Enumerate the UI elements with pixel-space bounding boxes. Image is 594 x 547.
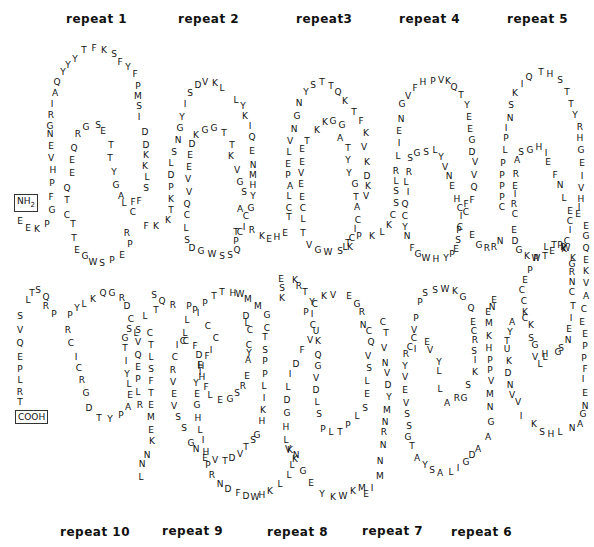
residue-repeat4_outer: Q bbox=[450, 83, 457, 92]
repeat-title-top: repeat 4 bbox=[399, 12, 460, 26]
residue-repeat5_outer: G bbox=[578, 146, 585, 155]
residue-repeat1_outer: Y bbox=[72, 55, 78, 64]
residue-repeat2_inner: K bbox=[228, 152, 234, 161]
residue-repeat1_inner: T bbox=[64, 196, 70, 205]
residue-repeat2_bottom: W bbox=[208, 250, 217, 259]
residue-repeat8_outer: I bbox=[289, 370, 292, 379]
residue-repeat7_link: M bbox=[486, 390, 494, 399]
residue-repeat6_outer: R bbox=[569, 268, 575, 277]
residue-repeat1_outer: G bbox=[47, 122, 54, 131]
residue-repeat8_inner: N bbox=[360, 321, 367, 330]
residue-repeat1_inner: Q bbox=[63, 184, 70, 193]
residue-repeat7_outer: V bbox=[402, 373, 408, 382]
residue-repeat4_bottom: E bbox=[453, 245, 459, 254]
residue-repeat4_inner: C bbox=[402, 212, 408, 221]
residue-repeat3_inner: Y bbox=[345, 156, 351, 165]
residue-repeat8_link: N bbox=[382, 359, 389, 368]
residue-repeat8_link: D bbox=[385, 381, 392, 390]
residue-repeat2_bottom: K bbox=[259, 232, 265, 241]
residue-repeat8_inner: V bbox=[313, 374, 319, 383]
residue-repeat7_link: G bbox=[488, 418, 495, 427]
residue-repeat9_outer: N bbox=[193, 445, 200, 454]
residue-repeat5_outer: Y bbox=[572, 111, 578, 120]
residue-repeat6_outer: Y bbox=[507, 328, 513, 337]
residue-repeat8_inner: C bbox=[366, 327, 372, 336]
residue-repeat10_inner: I bbox=[125, 357, 128, 366]
residue-repeat7_outer: C bbox=[407, 343, 413, 352]
residue-repeat1_outer: H bbox=[50, 166, 57, 175]
residue-repeat10_outer: H bbox=[259, 491, 266, 500]
residue-repeat10_inner: N bbox=[139, 460, 146, 469]
residue-repeat3_inner: K bbox=[322, 118, 328, 127]
residue-repeat7_link: M bbox=[485, 319, 493, 328]
residue-repeat7_link: P bbox=[487, 356, 492, 365]
residue-repeat2_outer: Y bbox=[240, 102, 246, 111]
residue-repeat1_outer: F bbox=[136, 197, 141, 206]
residue-cterm: E bbox=[17, 353, 23, 362]
residue-repeat10_inner: I bbox=[75, 353, 78, 362]
residue-cterm: V bbox=[17, 326, 23, 335]
residue-repeat2_outer: K bbox=[168, 195, 174, 204]
residue-repeat10_inner: K bbox=[90, 295, 96, 304]
residue-repeat8_outer: L bbox=[283, 436, 288, 445]
repeat-title-top: repeat3 bbox=[296, 12, 352, 26]
residue-repeat4_outer: S bbox=[393, 199, 399, 208]
residue-link56: P bbox=[582, 342, 587, 351]
residue-repeat7_outer: A bbox=[444, 399, 450, 408]
residue-repeat3_inner: E bbox=[298, 180, 304, 189]
residue-repeat6_outer: C bbox=[519, 286, 525, 295]
residue-repeat6_outer: T bbox=[570, 302, 576, 311]
residue-repeat10_inner: C bbox=[128, 315, 134, 324]
residue-repeat2_bottom: S bbox=[219, 252, 225, 261]
residue-repeat10_inner: F bbox=[148, 377, 153, 386]
residue-repeat9_outer: G bbox=[264, 311, 271, 320]
residue-repeat7_link: V bbox=[488, 377, 494, 386]
residue-repeat8_outer: S bbox=[279, 284, 285, 293]
residue-repeat1_outer: I bbox=[138, 113, 141, 122]
residue-repeat5_bottom: E bbox=[511, 226, 517, 235]
residue-repeat8_link: N bbox=[380, 441, 387, 450]
residue-repeat4_outer: F bbox=[469, 196, 474, 205]
residue-repeat9_outer: C bbox=[264, 324, 270, 333]
residue-repeat4_outer: C bbox=[390, 211, 396, 220]
residue-repeat10_inner: P bbox=[67, 311, 72, 320]
residue-repeat4_bottom: S bbox=[455, 236, 461, 245]
residue-repeat3_outer: K bbox=[342, 97, 348, 106]
residue-repeat1_bottom: W bbox=[89, 258, 98, 267]
residue-link56: F bbox=[582, 365, 587, 374]
residue-repeat1_outer: P bbox=[49, 179, 54, 188]
residue-repeat8_outer: M bbox=[358, 484, 366, 493]
residue-repeat1_inner: R bbox=[75, 130, 81, 139]
residue-link34: K bbox=[386, 221, 392, 230]
residue-repeat8_inner: L bbox=[328, 428, 333, 437]
residue-repeat2_outer: V bbox=[202, 78, 208, 87]
residue-repeat8_inner: Q bbox=[314, 351, 321, 360]
residue-repeat10_outer: D bbox=[243, 492, 250, 501]
residue-repeat5_outer: L bbox=[502, 146, 507, 155]
residue-repeat5_inner: I bbox=[514, 190, 517, 199]
residue-repeat8_inner: P bbox=[320, 425, 325, 434]
residue-repeat6_outer: V bbox=[515, 398, 521, 407]
residue-repeat3_inner: Y bbox=[346, 169, 352, 178]
residue-repeat10_outer: L bbox=[142, 312, 147, 321]
residue-cterm: T bbox=[29, 289, 35, 298]
residue-repeat2_inner: E bbox=[186, 163, 192, 172]
residue-repeat9_outer: S bbox=[181, 424, 187, 433]
residue-cterm: Q bbox=[16, 339, 23, 348]
residue-repeat8_outer: G bbox=[284, 409, 291, 418]
residue-repeat2_outer: K bbox=[212, 79, 218, 88]
residue-repeat2_inner: T bbox=[229, 141, 235, 150]
residue-repeat2_outer: G bbox=[177, 124, 184, 133]
residue-repeat4_outer: T bbox=[458, 91, 464, 100]
residue-repeat2_outer: I bbox=[184, 100, 187, 109]
residue-repeat1_inner: Y bbox=[111, 168, 117, 177]
residue-repeat6_outer: N bbox=[569, 278, 576, 287]
residue-repeat10_inner: C bbox=[68, 339, 74, 348]
residue-repeat2_outer: Y bbox=[179, 113, 185, 122]
residue-repeat10_outer: N bbox=[293, 451, 300, 460]
residue-repeat5_inner: S bbox=[518, 148, 524, 157]
residue-repeat3_outer: T bbox=[319, 78, 325, 87]
residue-repeat4_inner: Y bbox=[438, 153, 444, 162]
residue-repeat1_bottom: S bbox=[99, 259, 105, 268]
residue-repeat9_outer: V bbox=[237, 450, 243, 459]
